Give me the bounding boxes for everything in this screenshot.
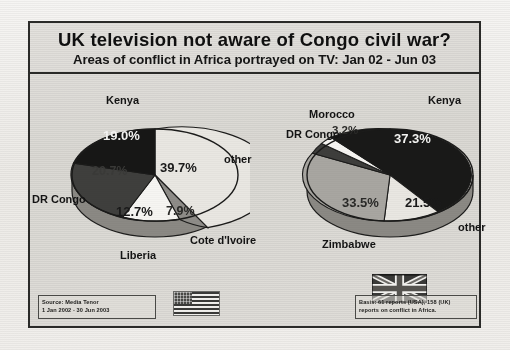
usa-pct-kenya: 19.0%: [103, 129, 140, 142]
uk-pct-kenya: 37.3%: [394, 132, 431, 145]
usa-flag-canton: [174, 292, 192, 304]
uk-pie-chart: Kenya 37.3% Morocco 3.2% DR Congo 33.5% …: [290, 99, 490, 249]
source-line-1: Source: Media Tenor: [42, 298, 152, 306]
uk-pct-zimbabwe: 33.5%: [342, 196, 379, 209]
usa-flag: [173, 291, 220, 316]
usa-label-kenya: Kenya: [106, 95, 139, 106]
screenshot-root: UK television not aware of Congo civil w…: [0, 0, 510, 350]
usa-label-other: other: [224, 154, 252, 165]
uk-pct-other: 21.5%: [405, 196, 442, 209]
usa-pie-chart: Kenya 19.0% DR Congo 20.7% other 39.7% 1…: [60, 99, 250, 249]
basis-line-2: reports on conflict in Africa.: [359, 306, 473, 314]
chart-figure: UK television not aware of Congo civil w…: [28, 21, 481, 328]
basis-note-box: Basis: 61 reports (USA), 158 (UK) report…: [355, 295, 477, 319]
uk-label-zimbabwe: Zimbabwe: [322, 239, 376, 250]
basis-line-1: Basis: 61 reports (USA), 158 (UK): [359, 298, 473, 306]
source-note-box: Source: Media Tenor 1 Jan 2002 - 30 Jun …: [38, 295, 156, 319]
uk-label-other: other: [458, 222, 486, 233]
usa-pct-cotedivoire: 7.9%: [166, 205, 195, 218]
usa-pct-other: 39.7%: [160, 161, 197, 174]
usa-label-liberia: Liberia: [120, 250, 156, 261]
uk-label-drcongo: DR Congo: [286, 129, 340, 140]
usa-pct-liberia: 12.7%: [116, 205, 153, 218]
usa-label-cotedivoire: Cote d'Ivoire: [190, 235, 256, 246]
page-subtitle: Areas of conflict in Africa portrayed on…: [38, 52, 471, 67]
source-line-2: 1 Jan 2002 - 30 Jun 2003: [42, 306, 152, 314]
usa-pct-drcongo: 20.7%: [92, 165, 127, 178]
uk-label-morocco: Morocco: [309, 109, 355, 120]
usa-pie-svg: [60, 99, 250, 249]
uk-label-kenya: Kenya: [428, 95, 461, 106]
figure-title-bar: UK television not aware of Congo civil w…: [30, 23, 479, 74]
page-title: UK television not aware of Congo civil w…: [38, 30, 471, 50]
usa-label-drcongo: DR Congo: [32, 194, 86, 205]
